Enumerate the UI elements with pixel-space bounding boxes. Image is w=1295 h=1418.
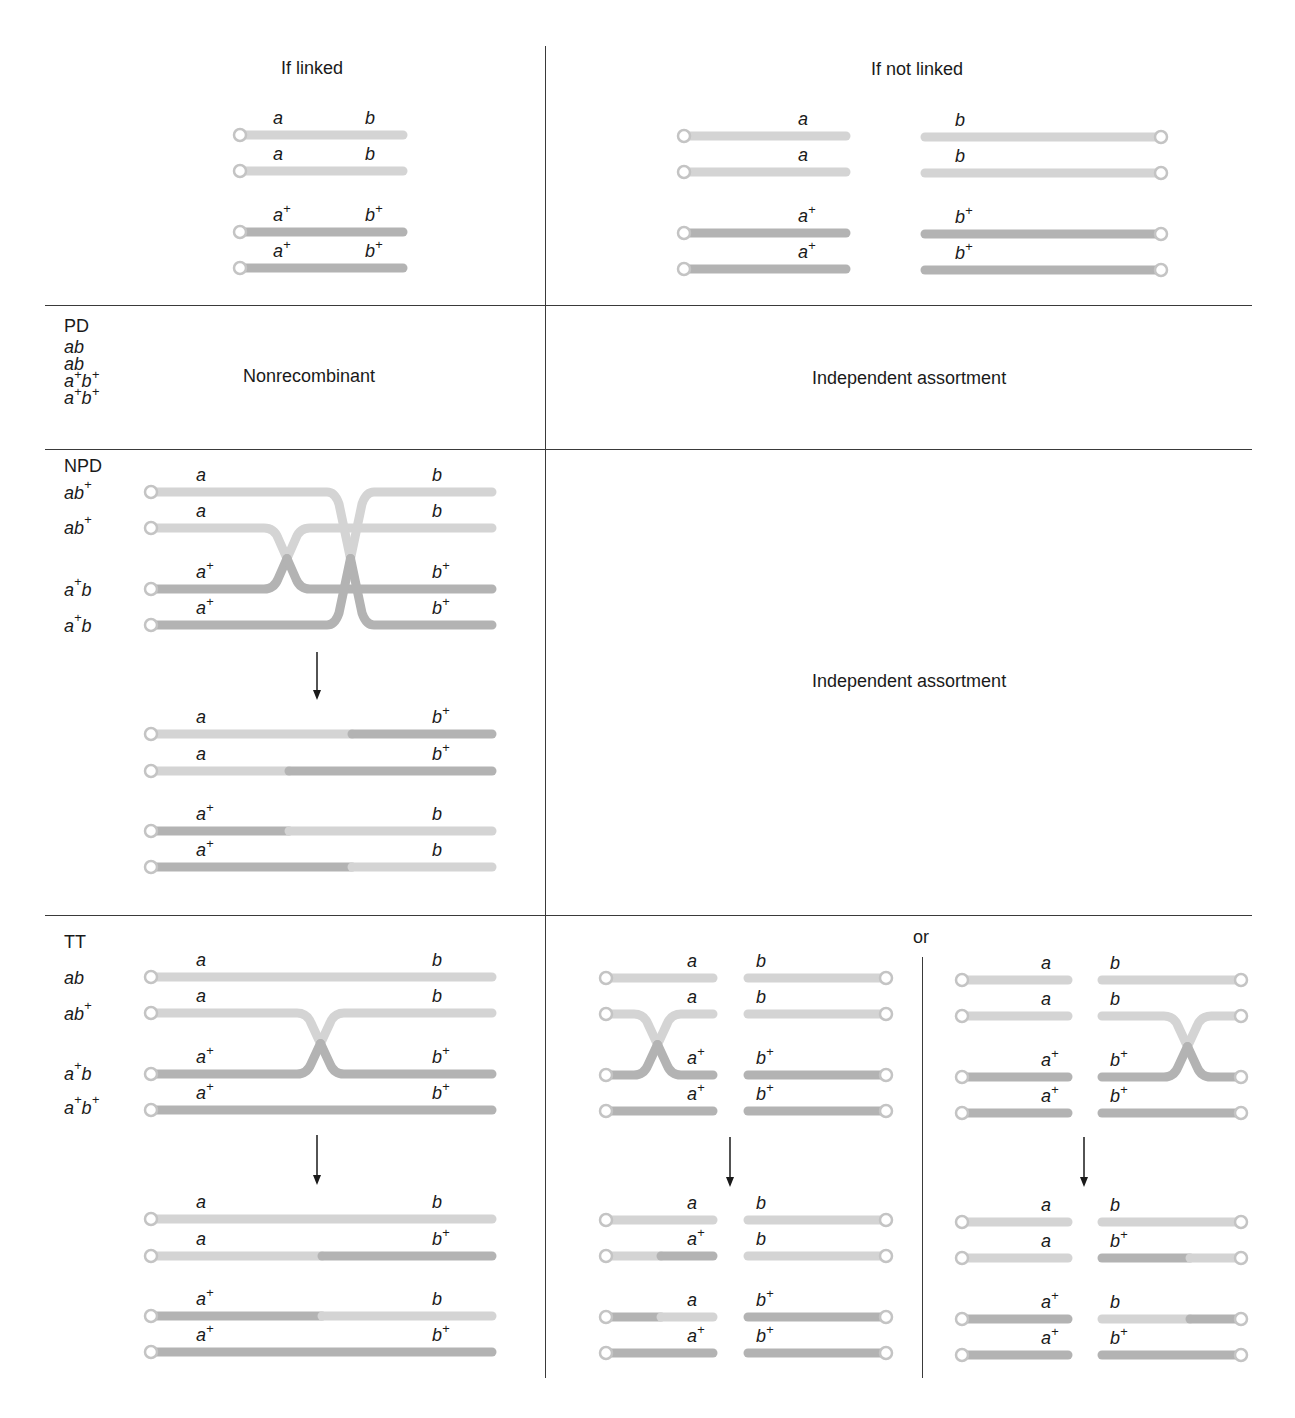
centromere-icon [880, 972, 892, 984]
allele-label: a+ [196, 1326, 214, 1344]
allele-label: a [687, 1291, 697, 1309]
centromere-icon [956, 1107, 968, 1119]
allele-label: a+ [687, 1049, 705, 1067]
centromere-icon [600, 1069, 612, 1081]
centromere-icon [880, 1347, 892, 1359]
allele-label: b+ [1110, 1087, 1128, 1105]
centromere-icon [956, 1010, 968, 1022]
allele-label: b [756, 952, 766, 970]
centromere-icon [1155, 264, 1167, 276]
centromere-icon [956, 974, 968, 986]
allele-label: b [1110, 954, 1120, 972]
allele-label: b+ [955, 244, 973, 262]
allele-label: a+ [196, 1290, 214, 1308]
centromere-icon [234, 226, 246, 238]
centromere-icon [1155, 131, 1167, 143]
crossover-strand [321, 1044, 493, 1075]
centromere-icon [145, 1213, 157, 1225]
allele-label: b+ [432, 1326, 450, 1344]
centromere-icon [600, 972, 612, 984]
centromere-icon [956, 1216, 968, 1228]
allele-label: b+ [365, 242, 383, 260]
allele-label: a+ [273, 206, 291, 224]
allele-label: b+ [365, 206, 383, 224]
allele-label: a+ [196, 1048, 214, 1066]
allele-label: b+ [432, 1230, 450, 1248]
arrow-head-icon [726, 1177, 734, 1187]
chromatid-drawings [0, 0, 1295, 1418]
allele-label: b [1110, 990, 1120, 1008]
centromere-icon [234, 262, 246, 274]
allele-label: a+ [196, 805, 214, 823]
allele-label: a+ [1041, 1293, 1059, 1311]
centromere-icon [956, 1252, 968, 1264]
allele-label: a+ [196, 841, 214, 859]
crossover-strand [287, 528, 492, 559]
allele-label: b+ [432, 563, 450, 581]
allele-label: a+ [687, 1085, 705, 1103]
allele-label: b [1110, 1196, 1120, 1214]
centromere-icon [880, 1069, 892, 1081]
crossover-strand [151, 559, 287, 590]
allele-label: a [273, 109, 283, 127]
crossover-strand [1102, 1016, 1188, 1047]
allele-label: a [196, 1230, 206, 1248]
allele-label: b+ [756, 1085, 774, 1103]
allele-label: b [432, 951, 442, 969]
allele-label: b+ [756, 1049, 774, 1067]
allele-label: a [798, 110, 808, 128]
allele-label: b [1110, 1293, 1120, 1311]
centromere-icon [234, 129, 246, 141]
allele-label: a+ [196, 599, 214, 617]
centromere-icon [956, 1349, 968, 1361]
centromere-icon [1235, 1107, 1247, 1119]
centromere-icon [145, 486, 157, 498]
crossover-strand [151, 528, 287, 559]
allele-label: b [432, 1290, 442, 1308]
allele-label: b+ [1110, 1232, 1128, 1250]
centromere-icon [956, 1313, 968, 1325]
allele-label: b+ [955, 208, 973, 226]
allele-label: a [687, 988, 697, 1006]
allele-label: a [798, 146, 808, 164]
crossover-strand [606, 1045, 658, 1076]
centromere-icon [145, 971, 157, 983]
centromere-icon [600, 1105, 612, 1117]
centromere-icon [145, 1250, 157, 1262]
centromere-icon [880, 1008, 892, 1020]
allele-label: b [756, 1230, 766, 1248]
allele-label: a+ [687, 1230, 705, 1248]
tetrad-analysis-diagram: If linked If not linked PD ab ab a+b+ a+… [0, 0, 1295, 1418]
centromere-icon [1235, 1010, 1247, 1022]
centromere-icon [880, 1105, 892, 1117]
arrow-head-icon [313, 1175, 321, 1185]
crossover-strand [1188, 1016, 1242, 1047]
allele-label: b [432, 502, 442, 520]
allele-label: b [432, 1193, 442, 1211]
centromere-icon [678, 263, 690, 275]
crossover-strand [606, 1014, 658, 1045]
centromere-icon [145, 583, 157, 595]
allele-label: b+ [756, 1291, 774, 1309]
centromere-icon [600, 1311, 612, 1323]
centromere-icon [145, 825, 157, 837]
allele-label: a+ [687, 1327, 705, 1345]
centromere-icon [145, 522, 157, 534]
allele-label: a+ [1041, 1329, 1059, 1347]
allele-label: a [196, 987, 206, 1005]
allele-label: a [196, 1193, 206, 1211]
allele-label: b [432, 841, 442, 859]
centromere-icon [145, 1068, 157, 1080]
arrow-head-icon [1080, 1177, 1088, 1187]
centromere-icon [234, 165, 246, 177]
centromere-icon [145, 1346, 157, 1358]
allele-label: a+ [1041, 1051, 1059, 1069]
crossover-strand [151, 1044, 321, 1075]
centromere-icon [1235, 1349, 1247, 1361]
centromere-icon [145, 861, 157, 873]
centromere-icon [145, 1104, 157, 1116]
allele-label: a [196, 466, 206, 484]
centromere-icon [1235, 1252, 1247, 1264]
allele-label: b+ [1110, 1051, 1128, 1069]
allele-label: a+ [196, 563, 214, 581]
